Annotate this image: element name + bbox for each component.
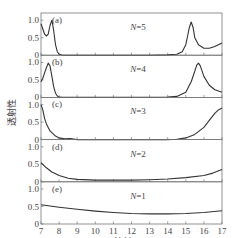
y-tick-label: 0.5 [28, 202, 40, 212]
x-tick-label: 16 [199, 226, 209, 236]
panel-n-label: N=2 [129, 149, 146, 159]
panel-frame [41, 140, 222, 182]
x-tick-label: 14 [163, 226, 173, 236]
series-line [41, 163, 222, 181]
panel-frame [41, 13, 222, 55]
x-tick-label: 15 [181, 226, 191, 236]
y-tick-label: 0.5 [28, 33, 40, 43]
x-tick-label: 17 [218, 226, 228, 236]
y-axis-label: 透射性 [6, 99, 17, 126]
y-tick-label: 1.0 [28, 184, 40, 194]
panel-n-label: N=1 [129, 191, 146, 201]
y-tick-label: 1.0 [28, 142, 40, 152]
y-tick-label: 1.0 [28, 57, 40, 67]
panel-frame [41, 97, 222, 139]
x-tick-label: 13 [145, 226, 155, 236]
x-tick-label: 11 [109, 226, 118, 236]
y-tick-label: 1.0 [28, 15, 40, 25]
panel-tag: (e) [52, 184, 62, 194]
series-line [41, 205, 222, 214]
y-tick-label: 0.5 [28, 75, 40, 85]
panel-n-label: N=5 [129, 22, 146, 32]
x-axis-label: 波长/μm [114, 236, 150, 238]
transmissivity-chart: 00.51.0(a)N=500.51.0(b)N=400.51.0(c)N=30… [0, 0, 234, 238]
x-tick-label: 8 [57, 226, 62, 236]
panel-frame [41, 182, 222, 224]
y-tick-label: 1.0 [28, 100, 40, 110]
x-tick-label: 7 [39, 226, 44, 236]
panel-tag: (b) [52, 57, 63, 67]
x-tick-label: 9 [75, 226, 80, 236]
panel-n-label: N=3 [129, 106, 146, 116]
panel-tag: (a) [52, 15, 62, 25]
y-tick-label: 0.5 [28, 117, 40, 127]
panel-n-label: N=4 [129, 64, 146, 74]
x-tick-label: 10 [91, 226, 101, 236]
y-tick-label: 0.5 [28, 159, 40, 169]
x-tick-label: 12 [127, 226, 136, 236]
panel-tag: (d) [52, 142, 63, 152]
panel-frame [41, 55, 222, 97]
panel-tag: (c) [52, 99, 62, 109]
